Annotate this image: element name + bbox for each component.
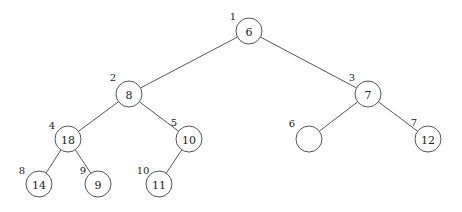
node-index-label: 8 [19,165,25,176]
node-value: 6 [246,26,253,39]
node-value: 8 [126,89,133,102]
tree-node: 8 [116,81,142,107]
tree-node: 14 [26,171,52,197]
node-index-label: 3 [349,72,355,83]
node-index-label: 7 [411,117,417,128]
tree-node: 12 [415,126,441,152]
tree-node: 10 [176,126,202,152]
tree-node: 6 [236,18,262,44]
tree-edge [319,102,357,131]
node-index-label: 9 [80,165,86,176]
tree-node: 9 [85,171,111,197]
node-value: 11 [152,179,166,192]
heap-tree-diagram: 68718101214911 12345678910 [0,0,462,212]
tree-node: 7 [355,81,381,107]
node-index-label: 4 [49,120,55,131]
tree-edge [141,37,238,88]
node-value: 18 [61,134,75,147]
tree-node: 18 [55,126,81,152]
node-value: 9 [95,179,102,192]
tree-edge [78,102,118,132]
tree-edge [260,37,356,88]
tree-edge [46,150,61,173]
node-index-label: 10 [137,165,150,176]
node-index-label: 6 [289,118,295,129]
tree-node: 11 [146,171,172,197]
tree-node [296,126,322,152]
node-value: 10 [182,134,196,147]
node-value: 7 [365,89,372,102]
node-index-label: 2 [110,72,116,83]
node-index-label: 5 [171,117,177,128]
node-index-label: 1 [230,11,236,22]
tree-edge [166,150,182,173]
node-value: 12 [421,134,435,147]
node-circle [296,126,322,152]
node-value: 14 [32,179,46,192]
